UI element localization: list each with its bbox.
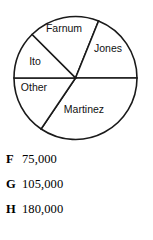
answer-option-f[interactable]: F75,000 <box>0 152 153 177</box>
answer-letter: G <box>6 177 22 192</box>
answer-value: 75,000 <box>22 152 57 167</box>
answer-choices-list: F75,000G105,000H180,000 <box>0 152 153 227</box>
pie-slice-label-ito: Ito <box>29 55 41 67</box>
answer-value: 180,000 <box>22 202 63 217</box>
pie-slice-label-other: Other <box>21 81 48 93</box>
pie-slice-label-martinez: Martinez <box>64 103 104 115</box>
answer-option-h[interactable]: H180,000 <box>0 202 153 227</box>
pie-chart-figure: FarnumJonesMartinezOtherIto <box>0 0 153 150</box>
pie-slice-label-jones: Jones <box>94 42 122 54</box>
pie-slice-label-farnum: Farnum <box>46 22 82 34</box>
answer-value: 105,000 <box>22 177 63 192</box>
pie-chart-svg: FarnumJonesMartinezOtherIto <box>0 0 153 150</box>
answer-option-g[interactable]: G105,000 <box>0 177 153 202</box>
answer-letter: H <box>6 202 22 217</box>
pie-slice-group <box>14 16 137 139</box>
answer-letter: F <box>6 152 22 167</box>
